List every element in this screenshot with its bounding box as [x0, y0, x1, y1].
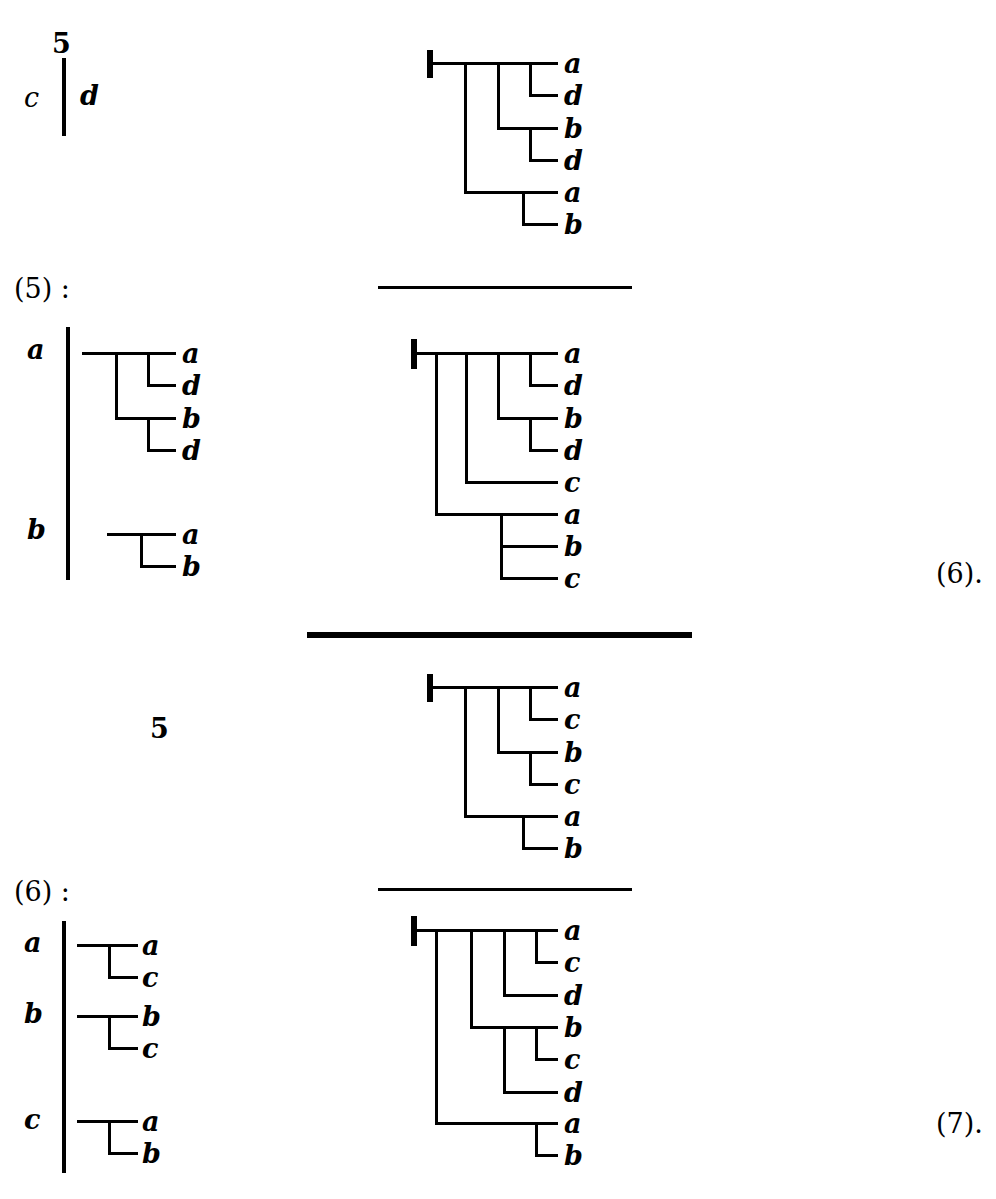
- tree1-branch-b2: [522, 223, 558, 226]
- tree1-branch-a2: [464, 191, 558, 194]
- g6r2-leaf-0: a: [142, 1108, 160, 1135]
- tree1-branch-d1: [529, 94, 558, 97]
- g5r0-leaf-3: d: [182, 437, 201, 464]
- tree2-node-outer: [435, 352, 438, 514]
- tree3-branch-b2: [522, 847, 558, 850]
- tree2-branch-a2: [435, 513, 558, 516]
- separator-rule-thick: [307, 632, 692, 638]
- tree4-node-outer: [435, 929, 438, 1123]
- g6r1-branch: [108, 1047, 138, 1050]
- tree2-leaf-1: d: [564, 372, 583, 399]
- tree2-branch-c1: [465, 481, 558, 484]
- equation-number-seven: (7).: [936, 1110, 983, 1137]
- tree2-node-ab: [500, 513, 503, 547]
- g6r2-node: [108, 1120, 111, 1154]
- tree2-node-d2: [529, 417, 532, 450]
- g5r0-leaf-2: b: [182, 405, 201, 432]
- tree3-node-acb: [497, 686, 500, 752]
- tree4-leaf-2: d: [564, 982, 583, 1009]
- tree2-node-ad: [529, 352, 532, 386]
- group-five-bar: [66, 327, 70, 580]
- g5r1-leaf-1: b: [182, 553, 201, 580]
- g5r0-node-d2: [147, 417, 150, 450]
- tree2-branch-d2: [529, 449, 558, 452]
- separator-rule-thin-2: [378, 888, 632, 891]
- tree3-trunk: [430, 686, 558, 689]
- tree1-leaf-2: b: [564, 115, 583, 142]
- g5r0-leaf-0: a: [182, 340, 200, 367]
- tree1-trunk: [430, 62, 558, 65]
- tree4-branch-c2: [535, 1058, 558, 1061]
- tree3-branch-c1: [529, 718, 558, 721]
- g5r0-leaf-1: d: [182, 372, 201, 399]
- g5r1-node-ab: [140, 533, 143, 567]
- g5r0-trunk: [82, 352, 176, 355]
- tree2-leaf-4: c: [564, 469, 580, 496]
- tree3-leaf-2: b: [564, 739, 583, 766]
- group-six-row-0-key: a: [24, 929, 42, 956]
- tree3-node-ac: [529, 686, 532, 720]
- middle-count-label: 5: [150, 715, 169, 742]
- g5r0-branch-b: [115, 417, 176, 420]
- tree2-leaf-7: c: [564, 565, 580, 592]
- tree2-node-c2: [500, 545, 503, 578]
- tree1-leaf-5: b: [564, 211, 583, 238]
- top-right-symbol: d: [80, 82, 99, 109]
- tree4-branch-b2: [535, 1154, 558, 1157]
- tree2-branch-b2: [500, 545, 558, 548]
- equation-number-six: (6).: [936, 560, 983, 587]
- tree1-leaf-4: a: [564, 179, 582, 206]
- tree2-node-c1: [465, 352, 468, 482]
- tree1-branch-b1: [497, 127, 558, 130]
- figure-page: 5 c d a d b d a b: [0, 0, 996, 1199]
- tree1-node-d2: [529, 127, 532, 160]
- tree4-leaf-5: d: [564, 1079, 583, 1106]
- top-count-label: 5: [52, 30, 71, 57]
- tree1-leaf-0: a: [564, 50, 582, 77]
- top-left-symbol: c: [24, 84, 39, 111]
- tree1-leaf-1: d: [564, 82, 583, 109]
- tree3-node-ab: [522, 815, 525, 849]
- tree3-leaf-4: a: [564, 803, 582, 830]
- group-six-row-2-key: c: [24, 1106, 40, 1133]
- tree4-branch-c1: [535, 961, 558, 964]
- g6r0-leaf-1: c: [142, 964, 158, 991]
- tree4-node-b: [470, 929, 473, 1027]
- tree2-branch-b: [497, 417, 558, 420]
- tree3-leaf-5: b: [564, 835, 583, 862]
- tree4-leaf-6: a: [564, 1110, 582, 1137]
- tree4-node-acd: [503, 929, 506, 995]
- g5r0-node-adb: [115, 352, 118, 418]
- tree3-branch-b: [497, 751, 558, 754]
- g6r0-node: [108, 944, 111, 978]
- group-six-row-1-key: b: [24, 1000, 43, 1027]
- top-group-bar: [62, 58, 66, 136]
- tree4-branch-d2: [503, 1091, 558, 1094]
- tree1-node-adb: [497, 62, 500, 128]
- tree2-leaf-5: a: [564, 501, 582, 528]
- g6r0-branch: [108, 976, 138, 979]
- tree4-node-ac: [535, 929, 538, 963]
- tree2-branch-d1: [529, 384, 558, 387]
- separator-rule-thin-1: [378, 286, 632, 289]
- group-five-row-1-key: b: [27, 516, 46, 543]
- tree1-node-ab: [522, 191, 525, 225]
- tree2-leaf-2: b: [564, 405, 583, 432]
- tree1-leaf-3: d: [564, 147, 583, 174]
- g5r0-branch-d1: [147, 384, 176, 387]
- tree2-leaf-3: d: [564, 437, 583, 464]
- g5r0-node-ad: [147, 352, 150, 386]
- tree2-leaf-0: a: [564, 340, 582, 367]
- tree4-node-ab: [535, 1122, 538, 1156]
- g6r2-leaf-1: b: [142, 1140, 161, 1167]
- tree1-node-root-right: [464, 62, 467, 192]
- tree3-branch-c2: [529, 783, 558, 786]
- g6r1-node: [108, 1015, 111, 1049]
- tree4-node-d2: [503, 1026, 506, 1092]
- g5r0-branch-d2: [147, 449, 176, 452]
- tree3-node-outer: [464, 686, 467, 816]
- tree4-branch-d1: [503, 994, 558, 997]
- tree4-leaf-1: c: [564, 949, 580, 976]
- tree3-branch-a2: [464, 815, 558, 818]
- tree4-leaf-4: c: [564, 1046, 580, 1073]
